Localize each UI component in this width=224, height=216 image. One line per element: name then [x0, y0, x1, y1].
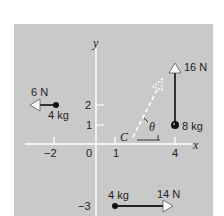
- net-force-arrow-head-icon: [153, 79, 162, 90]
- force-arrow-14n-head-icon: [163, 200, 173, 212]
- x-tick-label-0: 0: [86, 147, 92, 159]
- mass-label-4kg-b: 4 kg: [108, 189, 129, 201]
- angle-theta-label: θ: [149, 120, 155, 134]
- y-axis-label: y: [92, 36, 99, 50]
- particle-8kg-highlight: [173, 123, 175, 125]
- y-tick-label-2: 2: [85, 99, 91, 111]
- center-of-mass-label: C: [120, 130, 129, 144]
- force-arrow-6n-head-icon: [30, 99, 40, 111]
- x-tick-label-neg2: −2: [44, 147, 57, 159]
- force-diagram: y x −2 0 1 4 2 1 −3 6 N 4 kg 16 N 8 kg 4…: [0, 0, 224, 216]
- force-label-6n: 6 N: [31, 86, 48, 98]
- x-tick-label-4: 4: [172, 147, 178, 159]
- particle-4kg-b: [112, 203, 118, 209]
- x-tick-label-1: 1: [113, 147, 119, 159]
- mass-label-4kg-a: 4 kg: [48, 109, 69, 121]
- x-axis-label: x: [192, 138, 199, 152]
- y-tick-label-neg3: −3: [78, 200, 91, 212]
- angle-leader-line: [144, 118, 148, 122]
- y-tick-label-1: 1: [86, 119, 92, 131]
- particle-4kg-a: [53, 102, 59, 108]
- force-label-16n: 16 N: [184, 61, 207, 73]
- force-label-14n: 14 N: [157, 188, 180, 200]
- particle-8kg: [171, 121, 179, 129]
- force-arrow-16n-head-icon: [169, 63, 181, 73]
- mass-label-8kg: 8 kg: [182, 120, 203, 132]
